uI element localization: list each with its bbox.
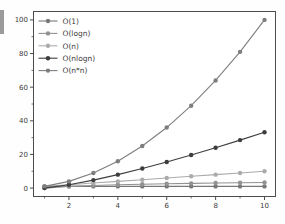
data-point-marker xyxy=(91,171,95,175)
data-point-marker xyxy=(213,181,217,185)
data-point-marker xyxy=(262,180,266,184)
data-point-marker xyxy=(165,125,169,129)
data-point-marker xyxy=(213,172,217,176)
x-tick-label: 4 xyxy=(116,202,121,210)
legend-marker-icon xyxy=(46,31,50,35)
data-point-marker xyxy=(262,184,266,188)
legend-marker-icon xyxy=(46,56,50,60)
data-point-marker xyxy=(140,177,144,181)
legend-marker-icon xyxy=(46,19,50,23)
data-point-marker xyxy=(140,182,144,186)
data-point-marker xyxy=(238,138,242,142)
data-point-marker xyxy=(213,78,217,82)
y-axis: 020406080100 xyxy=(15,16,34,192)
data-point-marker xyxy=(189,181,193,185)
data-point-marker xyxy=(189,153,193,157)
data-point-marker xyxy=(238,181,242,185)
data-point-marker xyxy=(213,146,217,150)
legend-label: O(n*n) xyxy=(63,66,88,75)
y-tick-label: 80 xyxy=(19,50,28,58)
data-point-marker xyxy=(165,182,169,186)
legend-marker-icon xyxy=(46,68,50,72)
data-point-marker xyxy=(67,179,71,183)
x-axis: 246810 xyxy=(45,197,269,211)
data-point-marker xyxy=(238,50,242,54)
data-point-marker xyxy=(262,130,266,134)
data-point-marker xyxy=(238,171,242,175)
data-point-marker xyxy=(91,178,95,182)
y-tick-label: 20 xyxy=(19,151,28,159)
data-point-marker xyxy=(116,172,120,176)
plot-area xyxy=(34,12,276,197)
data-point-marker xyxy=(140,144,144,148)
data-point-marker xyxy=(165,176,169,180)
y-tick-label: 60 xyxy=(19,84,28,92)
y-tick-label: 100 xyxy=(15,16,28,24)
legend-marker-icon xyxy=(46,44,50,48)
data-point-marker xyxy=(116,179,120,183)
legend-label: O(1) xyxy=(63,17,80,26)
data-point-marker xyxy=(116,159,120,163)
data-point-marker xyxy=(165,160,169,164)
x-tick-label: 6 xyxy=(164,202,169,210)
legend-label: O(n) xyxy=(63,42,80,51)
y-tick-label: 0 xyxy=(24,185,28,193)
data-point-marker xyxy=(42,184,46,188)
x-tick-label: 2 xyxy=(67,202,71,210)
y-tick-label: 40 xyxy=(19,117,28,125)
screenshot-root: 246810020406080100O(1)O(logn)O(n)O(nlogn… xyxy=(0,0,285,224)
x-tick-label: 10 xyxy=(260,202,269,210)
complexity-line-chart: 246810020406080100O(1)O(logn)O(n)O(nlogn… xyxy=(0,0,285,224)
data-point-marker xyxy=(262,18,266,22)
data-point-marker xyxy=(140,166,144,170)
legend-label: O(nlogn) xyxy=(63,54,96,63)
data-point-marker xyxy=(189,103,193,107)
data-point-marker xyxy=(262,169,266,173)
data-point-marker xyxy=(189,174,193,178)
legend-label: O(logn) xyxy=(63,29,91,38)
x-tick-label: 8 xyxy=(213,202,217,210)
